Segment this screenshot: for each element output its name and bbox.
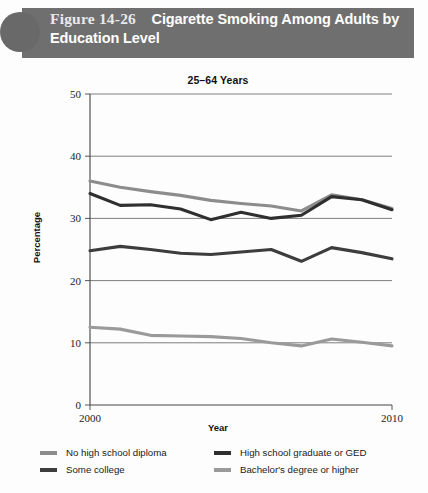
line-chart-plot: 01020304050 20002010	[22, 64, 414, 424]
chart-legend: No high school diploma Some college High…	[22, 444, 414, 486]
svg-text:2010: 2010	[381, 412, 404, 424]
legend-item: No high school diploma	[40, 444, 167, 461]
legend-swatch-icon	[214, 451, 231, 455]
y-axis-ticks: 01020304050	[70, 88, 90, 411]
gridlines	[90, 94, 392, 343]
legend-item-label: Some college	[66, 464, 125, 475]
svg-text:40: 40	[70, 150, 82, 162]
header-circle-decoration	[0, 12, 40, 52]
svg-text:2000: 2000	[79, 412, 102, 424]
legend-item: High school graduate or GED	[214, 444, 367, 461]
legend-item-label: No high school diploma	[66, 447, 167, 458]
x-axis-ticks: 20002010	[79, 405, 404, 424]
legend-swatch-icon	[214, 468, 231, 472]
svg-text:50: 50	[70, 88, 82, 100]
legend-column-right: High school graduate or GED Bachelor's d…	[214, 444, 367, 478]
svg-text:0: 0	[76, 399, 82, 411]
legend-swatch-icon	[40, 468, 57, 472]
legend-column-left: No high school diploma Some college	[40, 444, 167, 478]
svg-text:20: 20	[70, 275, 82, 287]
legend-item: Bachelor's degree or higher	[214, 461, 367, 478]
svg-text:30: 30	[70, 212, 82, 224]
figure-header-text: Figure 14-26 Cigarette Smoking Among Adu…	[50, 10, 402, 48]
chart-container: 25–64 Years Percentage Year 01020304050 …	[22, 64, 414, 484]
legend-item-label: Bachelor's degree or higher	[240, 464, 359, 475]
svg-text:10: 10	[70, 337, 82, 349]
legend-item: Some college	[40, 461, 167, 478]
legend-item-label: High school graduate or GED	[240, 447, 367, 458]
legend-swatch-icon	[40, 451, 57, 455]
figure-page: Figure 14-26 Cigarette Smoking Among Adu…	[0, 0, 428, 493]
data-series-lines	[90, 181, 392, 346]
figure-number: Figure 14-26	[50, 10, 136, 27]
